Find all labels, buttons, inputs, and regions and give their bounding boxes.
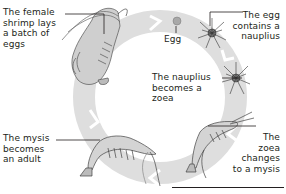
egg-icon	[173, 17, 181, 25]
label-zoea-changes-to-mysis: The zoea changes to a mysis	[233, 132, 280, 174]
bottom-rule	[172, 187, 284, 188]
label-egg-contains-nauplius: The egg contains a nauplius	[233, 10, 280, 42]
label-mysis-becomes-adult: The mysis becomes an adult	[3, 133, 49, 165]
label-nauplius-becomes-zoea: The nauplius becomes a zoea	[152, 72, 211, 104]
label-female-lays-eggs: The female shrimp lays a batch of eggs	[3, 7, 56, 49]
shrimp-life-cycle-diagram: The female shrimp lays a batch of eggs E…	[0, 0, 286, 194]
label-egg: Egg	[164, 34, 181, 45]
